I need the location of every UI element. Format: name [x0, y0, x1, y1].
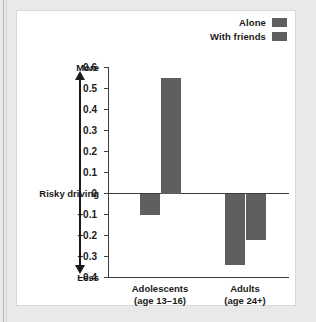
- y-tick-9: –0.3: [104, 256, 108, 257]
- y-tick-2: 0.4: [104, 109, 108, 110]
- y-tick-label-9: –0.3: [78, 251, 97, 262]
- plot-area: 0.6 0.5 0.4 0.3 0.2 0.1 0 –0.1: [108, 67, 289, 278]
- x-category-label-adolescents: Adolescents (age 13–16): [132, 283, 189, 307]
- y-tick-4: 0.2: [104, 151, 108, 152]
- axis-annotation-risky-driving: Risky driving: [39, 188, 99, 199]
- figure-page: Alone With friends More Risky driving Le…: [0, 0, 316, 322]
- y-tick-label-2: 0.4: [83, 104, 97, 115]
- page-left-rule-secondary: [6, 0, 7, 322]
- chart-card: Alone With friends More Risky driving Le…: [16, 10, 296, 306]
- bar-adolescents-with-friends[interactable]: [161, 78, 181, 194]
- legend-item-alone: Alone: [239, 17, 287, 28]
- y-tick-label-3: 0.3: [83, 125, 97, 136]
- x-category-sublabel-adults: (age 24+): [224, 295, 265, 307]
- y-axis-line: [108, 67, 109, 278]
- bar-adolescents-alone[interactable]: [140, 194, 160, 215]
- y-tick-5: 0.1: [104, 172, 108, 173]
- y-tick-0: 0.6: [104, 67, 108, 68]
- page-left-rule: [3, 0, 4, 322]
- y-tick-label-4: 0.2: [83, 146, 97, 157]
- y-tick-label-10: –0.4: [78, 272, 97, 283]
- y-tick-label-6: 0: [91, 188, 97, 199]
- x-category-sublabel-adolescents: (age 13–16): [132, 295, 189, 307]
- chart-legend: Alone With friends: [210, 17, 287, 42]
- x-axis-line: [108, 277, 289, 278]
- legend-item-with-friends: With friends: [210, 31, 287, 42]
- y-tick-label-8: –0.2: [78, 230, 97, 241]
- legend-swatch-with-friends: [272, 32, 287, 41]
- y-tick-label-7: –0.1: [78, 209, 97, 220]
- y-tick-8: –0.2: [104, 235, 108, 236]
- bar-adults-alone[interactable]: [225, 194, 245, 266]
- legend-swatch-alone: [272, 18, 287, 27]
- x-category-label-adults: Adults (age 24+): [224, 283, 265, 307]
- bar-adults-with-friends[interactable]: [246, 194, 266, 240]
- y-tick-10: –0.4: [104, 277, 108, 278]
- x-category-name-adults: Adults: [224, 283, 265, 295]
- legend-label-with-friends: With friends: [210, 31, 266, 42]
- y-tick-1: 0.5: [104, 88, 108, 89]
- y-tick-7: –0.1: [104, 214, 108, 215]
- y-tick-3: 0.3: [104, 130, 108, 131]
- x-category-name-adolescents: Adolescents: [132, 283, 189, 295]
- legend-label-alone: Alone: [239, 17, 266, 28]
- y-tick-label-1: 0.5: [83, 83, 97, 94]
- y-tick-label-5: 0.1: [83, 167, 97, 178]
- y-tick-label-0: 0.6: [83, 62, 97, 73]
